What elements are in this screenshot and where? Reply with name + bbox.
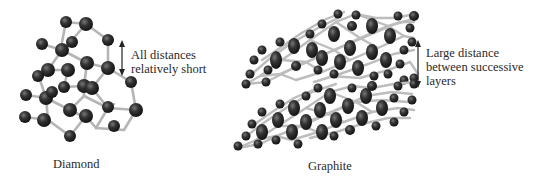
graphite-annotation: Large distance between successive layers [426,46,524,88]
graphite-structure [234,10,422,151]
molecular-structures-svg [0,0,533,182]
diamond-graphite-figure: All distances relatively short Large dis… [0,0,533,182]
diamond-annotation: All distances relatively short [131,48,206,76]
diamond-structure [19,16,143,142]
graphite-annotation-line-3: layers [426,74,524,88]
diamond-annotation-line-2: relatively short [131,62,206,76]
graphite-annotation-line-2: between successive [426,60,524,74]
graphite-caption: Graphite [308,159,352,174]
diamond-double-arrow-icon [119,40,125,76]
diamond-caption: Diamond [53,157,100,172]
graphite-annotation-line-1: Large distance [426,46,524,60]
diamond-annotation-line-1: All distances [131,48,206,62]
